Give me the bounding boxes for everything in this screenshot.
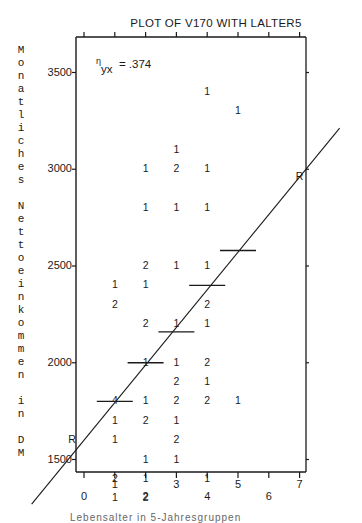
- data-point: 1: [201, 162, 213, 174]
- data-point: 1: [140, 453, 152, 465]
- data-point: 1: [109, 414, 121, 426]
- data-point: 2: [109, 472, 121, 484]
- data-point: 2: [109, 298, 121, 310]
- data-point: 1: [140, 394, 152, 406]
- data-point: 4: [109, 394, 121, 406]
- data-point: 2: [170, 375, 182, 387]
- data-point: 1: [170, 259, 182, 271]
- data-point: 1: [201, 201, 213, 213]
- data-point: 1: [170, 201, 182, 213]
- data-point: 2: [201, 394, 213, 406]
- data-point: 1: [201, 259, 213, 271]
- data-point: 1: [109, 491, 121, 503]
- data-point: 1: [140, 278, 152, 290]
- eta-annotation: ηyx = .374: [96, 56, 151, 75]
- data-point: 1: [201, 85, 213, 97]
- data-point: 2: [140, 414, 152, 426]
- data-point: 1: [170, 453, 182, 465]
- data-point: 1: [170, 356, 182, 368]
- data-point: 1: [170, 143, 182, 155]
- data-point: 1: [201, 317, 213, 329]
- regression-endpoint-marker: R: [66, 433, 78, 445]
- data-point: 2: [170, 394, 182, 406]
- data-point: 1: [140, 162, 152, 174]
- data-point: 2: [140, 491, 152, 503]
- data-point: 1: [140, 356, 152, 368]
- data-point: 2: [201, 298, 213, 310]
- eta-value: = .374: [119, 58, 151, 70]
- data-point: 2: [170, 433, 182, 445]
- data-point: 2: [201, 356, 213, 368]
- data-point: 1: [201, 375, 213, 387]
- data-point: 1: [232, 394, 244, 406]
- data-point: 1: [170, 414, 182, 426]
- x-axis-label: Lebensalter in 5-Jahresgruppen: [70, 512, 241, 523]
- eta-subscript: yx: [101, 63, 113, 75]
- data-point: 1: [232, 104, 244, 116]
- regression-endpoint-marker: R: [294, 170, 306, 182]
- data-point: 2: [170, 162, 182, 174]
- data-point: 2: [140, 259, 152, 271]
- data-point: 1: [109, 433, 121, 445]
- data-point: 1: [140, 201, 152, 213]
- data-point: 1: [170, 317, 182, 329]
- data-point: 1: [109, 278, 121, 290]
- data-point: 2: [140, 317, 152, 329]
- data-point: 1: [140, 472, 152, 484]
- data-point: 1: [201, 472, 213, 484]
